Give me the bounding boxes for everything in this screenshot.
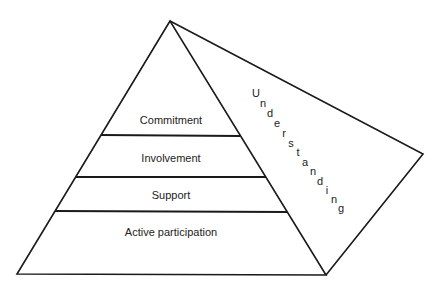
layer-label-involvement: Involvement <box>141 152 200 164</box>
side-letter: s <box>288 137 294 149</box>
side-letter: r <box>282 127 286 139</box>
pyramid-diagram: Commitment Involvement Support Active pa… <box>0 0 438 293</box>
side-letter: n <box>260 97 266 109</box>
side-letter: n <box>331 193 337 205</box>
side-letter: i <box>326 184 328 196</box>
side-letter: a <box>302 156 309 168</box>
layer-divider-1 <box>101 135 240 136</box>
layer-label-commitment: Commitment <box>140 114 202 126</box>
side-letter: d <box>317 175 323 187</box>
side-letter: U <box>252 87 260 99</box>
side-letter: t <box>296 146 299 158</box>
side-letter: d <box>267 107 273 119</box>
layer-label-support: Support <box>152 189 191 201</box>
side-letter: e <box>274 117 280 129</box>
layer-divider-3 <box>55 211 287 212</box>
side-letter: n <box>310 165 316 177</box>
side-letter: g <box>338 202 344 214</box>
layer-label-active-participation: Active participation <box>125 226 217 238</box>
